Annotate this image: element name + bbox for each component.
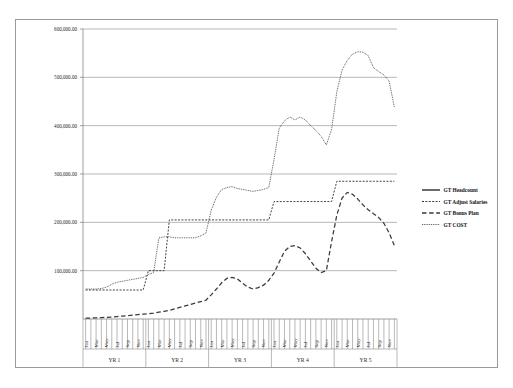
x-axis-month-label: Sep: [125, 340, 130, 348]
x-axis-year-label: YR 2: [171, 357, 183, 363]
x-axis-month-label: Jul: [115, 341, 120, 347]
chart-plot: 100,000.00200,000.00300,000.00400,000.00…: [16, 20, 497, 367]
x-axis-month-label: Mar: [282, 339, 287, 348]
x-axis-month-label: Mar: [157, 339, 162, 348]
x-axis-month-label: Mar: [220, 339, 225, 348]
y-axis-tick-label: 300,000.00: [54, 171, 77, 177]
y-axis-tick-label: 100,000.00: [54, 268, 77, 274]
x-axis-month-label: Jan: [84, 340, 89, 347]
y-axis-tick-label: 600,000.00: [54, 26, 77, 32]
x-axis-month-label: Jul: [178, 341, 183, 347]
x-axis-month-label: Nov: [261, 338, 266, 347]
x-axis-month-label: Mar: [345, 339, 350, 348]
x-axis-month-label: Jan: [209, 340, 214, 347]
series-line-gt-bonus-plan: [86, 192, 395, 318]
legend-label: GT Headcount: [444, 187, 478, 193]
x-axis-month-label: Sep: [188, 340, 193, 348]
x-axis-month-label: May: [167, 338, 172, 348]
x-axis-year-label: YR 1: [108, 357, 120, 363]
x-axis-month-label: Nov: [199, 338, 204, 347]
y-axis-tick-label: 200,000.00: [54, 219, 77, 225]
x-axis-month-label: Nov: [324, 338, 329, 347]
x-axis-year-label: YR 5: [360, 357, 372, 363]
x-axis-month-label: Sep: [377, 340, 382, 348]
x-axis-month-label: Sep: [251, 340, 256, 348]
series-line-gt-cost: [86, 52, 395, 289]
chart-frame: 100,000.00200,000.00300,000.00400,000.00…: [15, 19, 498, 368]
y-axis-tick-label: 500,000.00: [54, 74, 77, 80]
x-axis-month-label: Jul: [241, 341, 246, 347]
x-axis-month-label: Jul: [303, 341, 308, 347]
x-axis-month-label: May: [230, 338, 235, 348]
x-axis-month-label: Nov: [387, 338, 392, 347]
x-axis-year-label: YR 3: [234, 357, 246, 363]
x-axis-year-label: YR 4: [297, 357, 309, 363]
x-axis-month-label: Jan: [146, 340, 151, 347]
x-axis-month-label: Sep: [314, 340, 319, 348]
legend-label: GT Bonus Plan: [444, 210, 479, 216]
x-axis-month-label: Jul: [366, 341, 371, 347]
x-axis-month-label: Jan: [272, 340, 277, 347]
x-axis-month-label: May: [356, 338, 361, 348]
x-axis-month-label: May: [104, 338, 109, 348]
legend-label: GT Adjust Salaries: [444, 199, 488, 205]
y-axis-tick-label: 400,000.00: [54, 123, 77, 129]
x-axis-month-label: May: [293, 338, 298, 348]
series-line-gt-adjust-salaries: [86, 181, 395, 290]
chart-screenshot: 100,000.00200,000.00300,000.00400,000.00…: [0, 0, 513, 388]
legend-label: GT COST: [444, 222, 468, 228]
x-axis-month-label: Mar: [94, 339, 99, 348]
x-axis-month-label: Nov: [136, 338, 141, 347]
x-axis-month-label: Jan: [335, 340, 340, 347]
